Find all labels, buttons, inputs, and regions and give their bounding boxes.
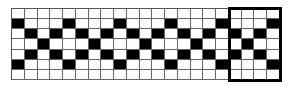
empty-cell [242,29,255,39]
filled-cell [114,19,127,29]
empty-cell [191,19,204,29]
filled-cell [101,50,114,60]
filled-cell [76,29,89,39]
empty-cell [76,60,89,70]
empty-cell [267,70,280,80]
filled-cell [127,50,140,60]
empty-cell [165,50,178,60]
filled-cell [229,29,242,39]
empty-cell [254,60,267,70]
empty-cell [165,70,178,80]
filled-cell [140,39,153,49]
filled-cell [12,60,25,70]
empty-cell [76,70,89,80]
filled-cell [216,19,229,29]
empty-cell [127,60,140,70]
empty-cell [101,39,114,49]
empty-cell [267,29,280,39]
empty-cell [38,19,51,29]
empty-cell [178,9,191,19]
filled-cell [216,60,229,70]
empty-cell [191,50,204,60]
empty-cell [152,70,165,80]
empty-cell [203,60,216,70]
empty-cell [63,50,76,60]
empty-cell [25,60,38,70]
filled-cell [203,50,216,60]
filled-cell [12,19,25,29]
empty-cell [178,19,191,29]
empty-cell [140,60,153,70]
empty-cell [89,60,102,70]
empty-cell [101,9,114,19]
empty-cell [114,70,127,80]
empty-cell [203,9,216,19]
filled-cell [203,29,216,39]
empty-cell [76,19,89,29]
empty-cell [12,39,25,49]
empty-cell [12,70,25,80]
empty-cell [38,29,51,39]
empty-cell [101,60,114,70]
empty-cell [191,9,204,19]
empty-cell [191,60,204,70]
empty-cell [216,39,229,49]
empty-cell [63,39,76,49]
empty-cell [38,70,51,80]
empty-cell [114,9,127,19]
empty-cell [229,60,242,70]
empty-cell [216,70,229,80]
filled-cell [63,19,76,29]
filled-cell [254,29,267,39]
empty-cell [140,29,153,39]
empty-cell [191,70,204,80]
empty-cell [89,70,102,80]
empty-cell [229,39,242,49]
filled-cell [38,39,51,49]
empty-cell [127,9,140,19]
empty-cell [12,9,25,19]
empty-cell [76,9,89,19]
empty-cell [229,9,242,19]
filled-cell [25,50,38,60]
empty-cell [63,9,76,19]
empty-cell [127,39,140,49]
empty-cell [216,29,229,39]
filled-cell [152,29,165,39]
empty-cell [178,39,191,49]
filled-cell [50,50,63,60]
empty-cell [89,29,102,39]
empty-cell [89,50,102,60]
empty-cell [191,29,204,39]
filled-cell [267,19,280,29]
empty-cell [50,70,63,80]
empty-cell [216,50,229,60]
filled-cell [114,60,127,70]
empty-cell [152,9,165,19]
empty-cell [114,29,127,39]
empty-cell [140,70,153,80]
empty-cell [140,19,153,29]
filled-cell [152,50,165,60]
empty-cell [254,9,267,19]
empty-cell [89,19,102,29]
empty-cell [76,39,89,49]
empty-cell [25,39,38,49]
filled-cell [63,60,76,70]
empty-cell [254,19,267,29]
empty-cell [267,39,280,49]
empty-cell [242,9,255,19]
empty-cell [50,60,63,70]
empty-cell [165,9,178,19]
filled-cell [127,29,140,39]
empty-cell [216,9,229,19]
empty-cell [140,9,153,19]
empty-cell [38,60,51,70]
empty-cell [165,39,178,49]
empty-cell [229,19,242,29]
empty-cell [25,19,38,29]
empty-cell [127,19,140,29]
empty-cell [152,60,165,70]
filled-cell [165,19,178,29]
empty-cell [127,70,140,80]
